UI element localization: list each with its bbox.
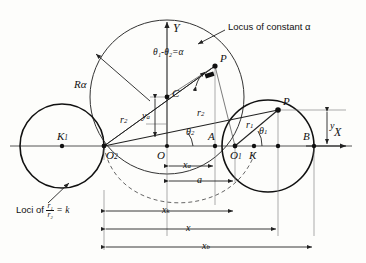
segment-o1-pupper [215,66,235,146]
figure-canvas: Y X Locus of constant α θ₁-θ₂=α Rα Loci … [0,0,366,263]
dot-c [165,95,170,100]
point-label-p-upper: P [220,53,227,64]
dot-origin [165,144,169,148]
segment-label-r2b: r2 [120,115,127,125]
dot-b [312,144,316,148]
xa-sub: a [187,162,190,169]
o2-base: O [106,149,114,161]
theta2-sub: 2 [191,129,194,136]
dot-k [252,144,256,148]
point-label-b: B [303,131,310,142]
axis-label-x: X [334,126,341,138]
loci-denominator: r₂ [46,211,54,219]
angle-label-theta2: θ2 [186,127,194,137]
dimension-label-x-b: xb [202,241,210,251]
loci-prefix: Loci of [16,204,44,215]
point-label-o2: O2 [106,150,118,161]
point-label-p-lower: P [283,96,290,107]
xb-sub: b [206,243,209,250]
dimension-label-x-k: xk [162,205,169,215]
o2-sub: 2 [114,152,118,161]
loci-suffix: = k [56,205,69,215]
segment-label-r1: r1 [246,120,253,130]
radius-alpha-leader [96,54,150,101]
dot-o2 [102,144,107,149]
point-label-c: C [172,88,179,99]
o1-base: O [230,149,238,161]
dimension-label-x: x [186,223,190,233]
diagram-svg [0,0,366,263]
dot-p-lower [275,107,281,113]
point-label-origin: O [157,150,165,161]
point-label-o1: O1 [230,150,242,161]
xk-sub: k [166,207,169,214]
loci-ratio-label: Loci of r₁r₂ = k [16,202,69,219]
angle-relation-label: θ₁-θ₂=α [153,48,184,58]
dot-a [213,144,217,148]
radius-alpha-label: Rα [74,79,87,90]
dot-k1 [60,144,64,148]
o1-sub: 1 [238,152,242,161]
dot-p-foot [276,144,280,148]
angle-label-theta1: θ1 [259,126,267,136]
r2b-sub: 2 [124,117,127,124]
k1-sub: 1 [64,133,68,142]
segment-label-r2: r2 [197,108,204,118]
dimension-label-x-a: xa [183,160,191,170]
theta1-sub: 1 [264,128,267,135]
axis-label-y: Y [173,22,180,34]
point-label-k1: K1 [57,131,68,142]
dimension-label-y: y [330,121,334,131]
dot-p-upper [212,63,217,68]
dimension-label-a: a [197,175,202,185]
locus-constant-alpha-label: Locus of constant α [228,22,311,32]
loci-fraction: r₁r₂ [46,202,54,219]
dot-o1 [233,144,238,149]
point-label-k: K [249,150,256,161]
dimension-label-y-a: ya [142,111,150,121]
r2-sub: 2 [201,110,204,117]
point-label-a: A [208,131,215,142]
r1-sub: 1 [250,122,253,129]
ya-sub: a [146,113,149,120]
